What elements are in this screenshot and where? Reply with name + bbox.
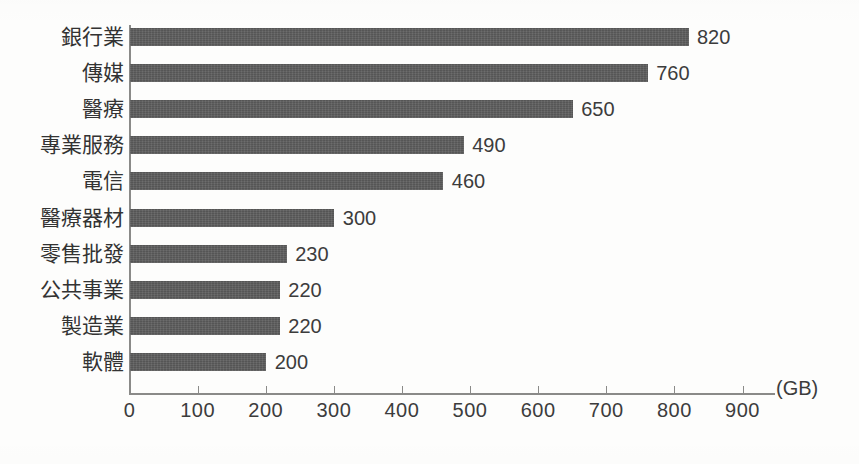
x-axis-unit-label: (GB) [776,377,818,400]
category-label: 專業服務 [0,134,124,155]
bar [130,353,266,371]
category-label: 零售批發 [0,243,124,264]
bar-value-label: 230 [295,244,328,264]
bar-value-label: 650 [581,99,614,119]
chart-page: 銀行業傳媒醫療專業服務電信醫療器材零售批發公共事業製造業軟體 820760650… [0,0,859,464]
x-axis-tick [334,386,335,394]
bar [130,209,334,227]
category-label: 軟體 [0,351,124,372]
bar-value-label: 300 [343,208,376,228]
bar [130,136,464,154]
category-label: 電信 [0,170,124,191]
x-axis-tick [743,386,744,394]
x-axis-tick [674,386,675,394]
x-axis-tick [198,386,199,394]
x-axis-tick [538,386,539,394]
x-axis-line [129,393,775,395]
x-axis-tick [402,386,403,394]
bar-value-label: 820 [697,27,730,47]
bar [130,281,280,299]
bar [130,245,287,263]
bar-value-label: 760 [656,63,689,83]
bar [130,317,280,335]
bar [130,64,648,82]
category-label: 公共事業 [0,279,124,300]
bar-value-label: 200 [275,352,308,372]
bar [130,28,689,46]
x-axis-tick-label: 900 [703,399,783,422]
bar-value-label: 490 [472,135,505,155]
category-label: 醫療器材 [0,207,124,228]
bar-value-label: 220 [288,316,321,336]
category-label: 醫療 [0,98,124,119]
x-axis-tick [606,386,607,394]
x-axis-tick [470,386,471,394]
bar-chart: 銀行業傳媒醫療專業服務電信醫療器材零售批發公共事業製造業軟體 820760650… [0,0,859,464]
bar-value-label: 460 [452,171,485,191]
category-label: 傳媒 [0,62,124,83]
x-axis-tick [266,386,267,394]
category-label: 銀行業 [0,26,124,47]
category-label: 製造業 [0,315,124,336]
bar [130,172,443,190]
bar [130,100,573,118]
bar-value-label: 220 [288,280,321,300]
